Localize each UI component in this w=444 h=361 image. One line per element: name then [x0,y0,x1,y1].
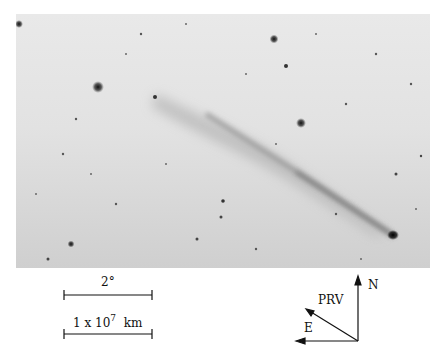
scale-label-distance-exp: 7 [110,313,116,323]
east-arrowhead [296,338,305,344]
scale-label-angle: 2° [101,276,115,288]
scale-label-distance: 1 x 107 km [73,314,142,329]
compass-label-north: N [368,279,379,291]
compass-label-east: E [304,322,313,334]
compass-label-prv: PRV [318,294,343,306]
scale-bar-angle [64,290,152,300]
scale-bar-distance [64,329,152,339]
scale-label-distance-main: 1 x 10 [73,316,110,330]
scale-label-distance-unit: km [124,316,143,330]
prv-arrowhead [306,309,314,316]
north-arrowhead [355,276,361,285]
comet-figure: 2° 1 x 107 km N PRV E [0,0,444,361]
annotations [0,0,444,361]
